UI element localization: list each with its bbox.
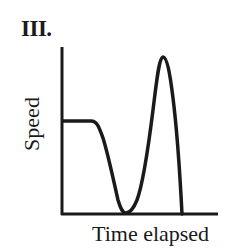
y-axis-label: Speed [21,97,43,151]
speed-curve [63,57,182,214]
x-axis-label: Time elapsed [92,223,209,245]
